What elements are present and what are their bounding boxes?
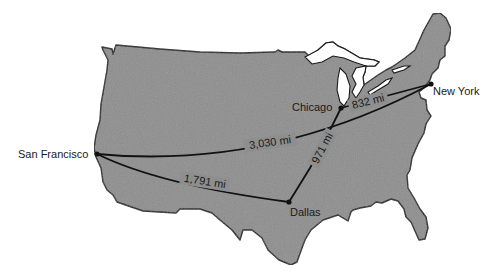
city-dot-dallas — [286, 199, 291, 204]
city-dot-san-francisco — [94, 151, 99, 156]
city-dot-chicago — [338, 105, 343, 110]
us-distance-map: 3,030 mi 1,791 mi 832 mi 971 mi San Fran… — [0, 0, 497, 277]
city-label-dallas: Dallas — [290, 207, 321, 218]
map-canvas: 3,030 mi 1,791 mi 832 mi 971 mi — [0, 0, 497, 277]
city-label-new-york: New York — [433, 86, 479, 97]
city-label-san-francisco: San Francisco — [18, 149, 88, 160]
city-label-chicago: Chicago — [292, 102, 332, 113]
